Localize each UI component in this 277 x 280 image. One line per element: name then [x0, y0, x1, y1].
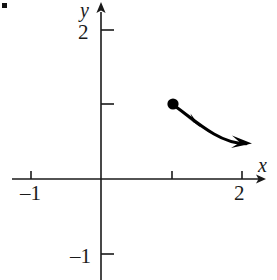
y-axis-arrowhead — [96, 2, 105, 13]
y-axis-tick-label-2: 2 — [78, 22, 89, 43]
x-axis-tick-label-2: 2 — [234, 183, 245, 204]
x-axis-tick-label-neg1: –1 — [20, 183, 41, 204]
initial-point-marker — [167, 98, 178, 109]
y-axis-label: y — [80, 0, 89, 20]
x-axis-label: x — [258, 155, 267, 175]
coordinate-plane-svg — [0, 0, 277, 280]
graph-figure: 2 –1 –1 2 x y — [0, 0, 277, 280]
y-axis-tick-label-neg1: –1 — [70, 246, 91, 267]
